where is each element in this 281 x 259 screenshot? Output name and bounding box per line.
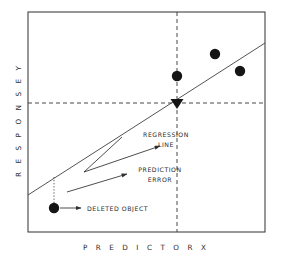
data-point [210, 49, 220, 59]
regression-diagnostic-plot: P R E D I C T O R X R E S P O N S E Y RE… [0, 0, 281, 259]
plot-frame [28, 12, 265, 232]
prediction-error-label-line1: PREDICTION [138, 166, 181, 173]
prediction-error-leader-arrow [67, 174, 127, 192]
y-axis-label: R E S P O N S E Y [14, 63, 23, 177]
regression-line-label-line1: REGRESSION [143, 131, 189, 138]
deleted-object-point [49, 203, 59, 213]
prediction-error-label-line2: ERROR [148, 176, 173, 183]
regression-line-label-line2: LINE [158, 141, 174, 148]
data-point [235, 66, 245, 76]
plot-canvas: P R E D I C T O R X R E S P O N S E Y RE… [0, 0, 281, 259]
x-axis-label: P R E D I C T O R X [83, 243, 209, 252]
regression-line-leader-stem [84, 137, 122, 172]
predicted-value-triangle-marker [171, 99, 184, 109]
data-point [172, 71, 182, 81]
deleted-object-label: DELETED OBJECT [87, 205, 148, 213]
